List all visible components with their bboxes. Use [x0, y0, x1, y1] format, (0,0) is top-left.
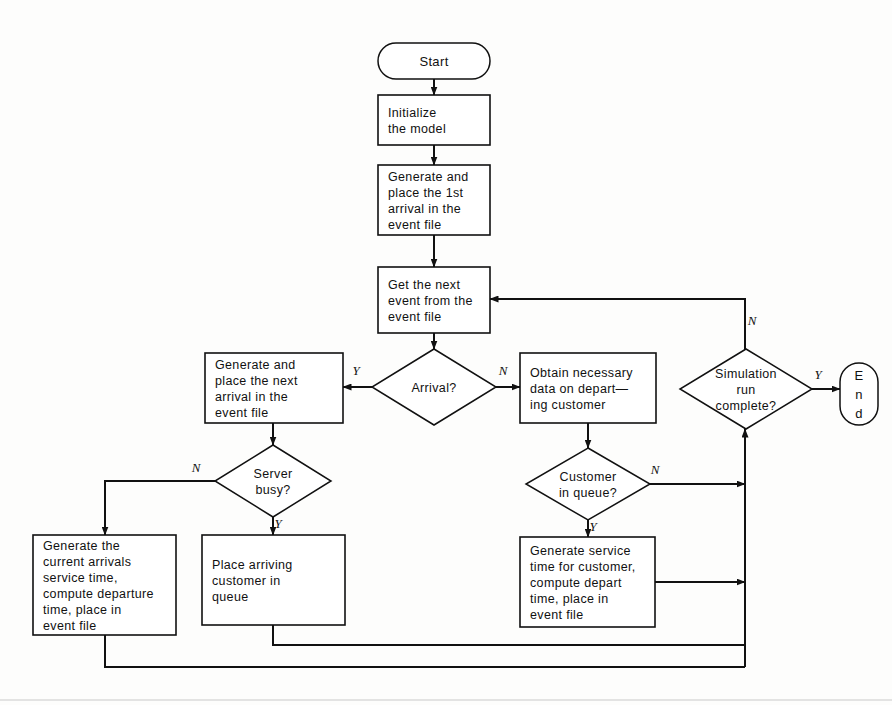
process-shape [378, 95, 490, 145]
node-label-line: event from the [388, 294, 473, 308]
node-arrival_q[interactable]: Arrival? [372, 349, 496, 425]
node-label-line: in queue? [559, 486, 617, 500]
node-label-line: n [855, 387, 863, 402]
edge-e-server-no [105, 481, 215, 535]
node-label-line: Server [254, 467, 293, 481]
node-label-line: Simulation [715, 367, 777, 381]
node-label-line: time, place in [43, 603, 122, 617]
node-sim_complete_q[interactable]: Simulationruncomplete? [680, 349, 812, 429]
edge-e-sim-no-loop [490, 299, 745, 349]
node-label-line: Customer [560, 470, 617, 484]
node-label-line: ing customer [530, 398, 606, 412]
node-label-line: Arrival? [411, 381, 456, 395]
node-label-line: current arrivals [43, 555, 131, 569]
node-label-line: busy? [255, 483, 290, 497]
node-label-line: run [736, 383, 755, 397]
node-customer_queue_q[interactable]: Customerin queue? [526, 448, 650, 520]
node-gen_service_time[interactable]: Generate servicetime for customer,comput… [520, 537, 655, 627]
branch-label-e-customer-no: N [650, 462, 661, 477]
edge-e-gencurrent-bottom [105, 635, 745, 667]
node-label-line: d [855, 406, 863, 421]
node-label-line: event file [388, 218, 442, 232]
branch-label-e-server-no: N [191, 460, 202, 475]
node-label-line: time for customer, [530, 560, 636, 574]
node-label-line: compute departure [43, 587, 154, 601]
node-label-line: Place arriving [212, 558, 293, 572]
node-place_customer[interactable]: Place arrivingcustomer inqueue [202, 535, 345, 625]
node-label-line: time, place in [530, 592, 609, 606]
nodes-layer: StartInitializethe modelGenerate andplac… [33, 43, 878, 635]
node-label-line: Initialize [388, 106, 437, 120]
node-label-line: place the next [215, 374, 298, 388]
node-get_event[interactable]: Get the nextevent from theevent file [378, 267, 490, 333]
edge-path [273, 625, 745, 645]
node-label-line: Generate the [43, 539, 120, 553]
decision-shape [526, 448, 650, 520]
flowchart-svg: StartInitializethe modelGenerate andplac… [0, 0, 892, 705]
node-label-line: event file [388, 310, 442, 324]
branch-label-e-customer-yes: Y [589, 519, 598, 534]
node-label-line: Get the next [388, 278, 460, 292]
node-next_arrival[interactable]: Generate andplace the nextarrival in the… [205, 353, 343, 423]
branch-label-e-sim-yes-end: Y [814, 367, 823, 382]
node-label-line: arrival in the [215, 390, 288, 404]
decision-shape [215, 445, 331, 517]
node-label-line: event file [43, 619, 97, 633]
node-start[interactable]: Start [378, 43, 490, 79]
node-label-line: data on depart— [530, 382, 629, 396]
flowchart-canvas: StartInitializethe modelGenerate andplac… [0, 0, 892, 705]
node-label-line: the model [388, 122, 446, 136]
node-label-line: complete? [716, 399, 777, 413]
branch-label-e-arrival-yes: Y [352, 363, 361, 378]
branch-label-e-arrival-no: N [498, 363, 509, 378]
node-label-line: place the 1st [388, 186, 464, 200]
node-label-line: event file [215, 406, 269, 420]
node-label-line: event file [530, 608, 584, 622]
node-label-line: Generate and [388, 170, 469, 184]
node-label-line: Generate and [215, 358, 296, 372]
node-server_busy_q[interactable]: Serverbusy? [215, 445, 331, 517]
node-label-line: arrival in the [388, 202, 461, 216]
node-initialize[interactable]: Initializethe model [378, 95, 490, 145]
edge-path [105, 635, 745, 667]
node-label-line: Generate service [530, 544, 631, 558]
node-label-line: Obtain necessary [530, 366, 633, 380]
node-label-line: compute depart [530, 576, 622, 590]
node-label-line: service time, [43, 571, 118, 585]
node-label-start: Start [419, 54, 448, 69]
node-end[interactable]: End [840, 363, 878, 425]
node-first_arrival[interactable]: Generate andplace the 1starrival in thee… [378, 165, 490, 235]
node-label-line: customer in [212, 574, 280, 588]
branch-label-e-sim-no-loop: N [747, 313, 758, 328]
edge-path [490, 299, 745, 349]
node-gen_current_arrival[interactable]: Generate thecurrent arrivalsservice time… [33, 535, 176, 635]
node-label-line: Start [419, 54, 448, 69]
branch-label-e-server-yes: Y [274, 516, 283, 531]
node-label-arrival_q: Arrival? [411, 381, 456, 395]
edge-path [105, 481, 215, 535]
node-obtain_data[interactable]: Obtain necessarydata on depart—ing custo… [520, 353, 656, 423]
node-label-end: End [854, 368, 863, 421]
edge-e-placecustomer-bottom [273, 625, 745, 645]
node-label-line: queue [212, 590, 249, 604]
node-label-line: E [854, 368, 863, 383]
